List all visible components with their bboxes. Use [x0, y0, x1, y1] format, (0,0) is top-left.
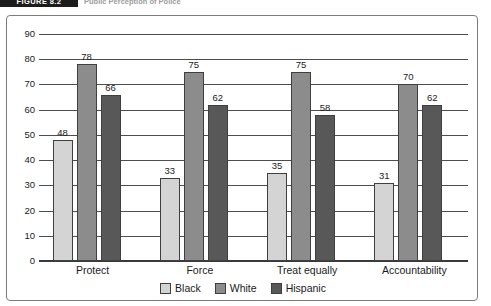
y-axis-tick-label: 40 — [11, 155, 35, 165]
legend-item-black: Black — [160, 282, 201, 294]
legend-label: Black — [175, 282, 201, 294]
bar-value-label: 31 — [368, 170, 400, 181]
y-axis-tick-label: 90 — [11, 29, 35, 39]
bar-value-label: 75 — [285, 59, 317, 70]
bar-white-treat-equally — [291, 72, 311, 261]
bar-chart-plot-area: 487866337562357558317062 — [39, 34, 468, 261]
gridline — [39, 59, 468, 60]
legend-swatch-icon — [271, 283, 282, 294]
legend-label: White — [230, 282, 257, 294]
y-axis-tick-label: 10 — [11, 231, 35, 241]
y-axis-tick-labels: 0102030405060708090 — [9, 34, 35, 261]
bar-value-label: 70 — [392, 71, 424, 82]
chart-figure-box: 0102030405060708090 48786633756235755831… — [6, 15, 478, 301]
bar-white-accountability — [398, 84, 418, 261]
y-axis-tick-label: 60 — [11, 105, 35, 115]
bar-value-label: 35 — [261, 160, 293, 171]
bar-value-label: 66 — [95, 82, 127, 93]
bar-black-accountability — [374, 183, 394, 261]
bar-white-protect — [77, 64, 97, 261]
figure-caption-title: Public Perception of Police — [84, 0, 181, 7]
bar-hispanic-force — [208, 105, 228, 261]
bar-value-label: 75 — [178, 59, 210, 70]
figure-number-badge: FIGURE 8.2 — [0, 0, 78, 7]
figure-caption-strip: FIGURE 8.2 Public Perception of Police — [0, 0, 491, 9]
bar-black-treat-equally — [267, 173, 287, 261]
y-axis-tick-label: 80 — [11, 54, 35, 64]
y-axis-tick-label: 70 — [11, 79, 35, 89]
bar-value-label: 62 — [416, 92, 448, 103]
legend-label: Hispanic — [286, 282, 326, 294]
x-axis-category-labels: ProtectForceTreat equallyAccountability — [39, 263, 468, 279]
x-axis-label-force: Force — [146, 263, 253, 277]
x-axis-label-accountability: Accountability — [361, 263, 468, 277]
bar-value-label: 48 — [47, 127, 79, 138]
bar-white-force — [184, 72, 204, 261]
bar-hispanic-protect — [101, 95, 121, 261]
legend-item-white: White — [215, 282, 257, 294]
bar-hispanic-treat-equally — [315, 115, 335, 261]
y-axis-tick-label: 20 — [11, 206, 35, 216]
chart-legend: BlackWhiteHispanic — [7, 282, 479, 294]
bar-value-label: 58 — [309, 102, 341, 113]
legend-swatch-icon — [160, 283, 171, 294]
bar-black-protect — [53, 140, 73, 261]
legend-swatch-icon — [215, 283, 226, 294]
x-axis-label-protect: Protect — [39, 263, 146, 277]
bar-value-label: 78 — [71, 51, 103, 62]
legend-item-hispanic: Hispanic — [271, 282, 326, 294]
bar-value-label: 33 — [154, 165, 186, 176]
bar-black-force — [160, 178, 180, 261]
y-axis-tick-label: 0 — [11, 256, 35, 266]
y-axis-tick-label: 30 — [11, 180, 35, 190]
x-axis-label-treat-equally: Treat equally — [254, 263, 361, 277]
gridline — [39, 34, 468, 35]
y-axis-tick-label: 50 — [11, 130, 35, 140]
bar-hispanic-accountability — [422, 105, 442, 261]
bar-value-label: 62 — [202, 92, 234, 103]
